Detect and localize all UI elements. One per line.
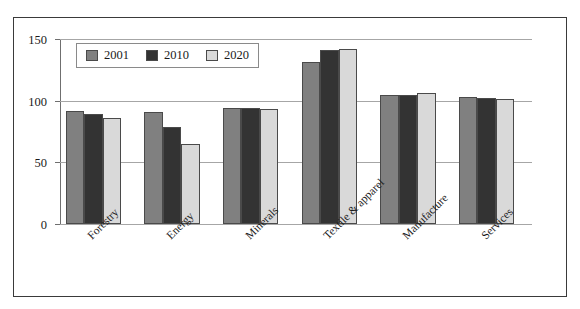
bar-group	[459, 39, 515, 224]
y-axis-line	[60, 39, 61, 224]
bar	[144, 112, 163, 224]
bar	[163, 127, 182, 224]
bar	[320, 50, 339, 224]
bar-group	[302, 39, 358, 224]
bar	[477, 98, 496, 224]
legend-entry-2010: 2010	[146, 48, 189, 63]
bar	[241, 108, 260, 224]
y-tick-label-150: 150	[28, 33, 47, 48]
chart-figure-frame: 050100150 ForestryEnergyMineralsTextile …	[13, 17, 567, 297]
legend-swatch-2020	[206, 50, 218, 61]
bar	[223, 108, 242, 224]
gridline-0	[60, 224, 532, 225]
y-tick-0: 0	[55, 224, 60, 225]
legend-swatch-2001	[86, 50, 98, 61]
y-tick-label-0: 0	[41, 218, 47, 233]
y-tick-150: 150	[55, 39, 60, 40]
legend-entry-2020: 2020	[206, 48, 249, 63]
bar	[399, 95, 418, 225]
bar	[66, 111, 85, 224]
bar	[459, 97, 478, 224]
legend-entry-2001: 2001	[86, 48, 129, 63]
legend-swatch-2010	[146, 50, 158, 61]
bar	[84, 114, 103, 224]
chart-legend: 200120102020	[76, 43, 259, 68]
legend-label-2001: 2001	[104, 48, 129, 63]
bar	[380, 95, 399, 225]
bar	[302, 62, 321, 224]
y-tick-50: 50	[55, 162, 60, 163]
y-tick-100: 100	[55, 101, 60, 102]
y-tick-label-100: 100	[28, 94, 47, 109]
y-tick-label-50: 50	[35, 156, 48, 171]
bar-group	[380, 39, 436, 224]
legend-label-2020: 2020	[224, 48, 249, 63]
legend-label-2010: 2010	[164, 48, 189, 63]
